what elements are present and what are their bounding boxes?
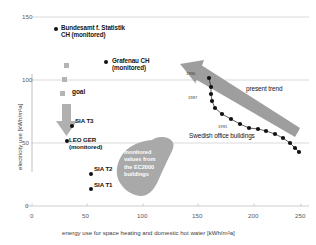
y-tick-0: 0 bbox=[25, 202, 28, 209]
annotation-present-trend: present trend bbox=[246, 85, 282, 93]
goal-arrow-icon bbox=[56, 104, 77, 136]
x-tick-150: 150 bbox=[192, 212, 202, 219]
y-tick-50: 50 bbox=[22, 139, 29, 146]
x-tick-250: 250 bbox=[295, 212, 305, 219]
goal-square-2 bbox=[62, 77, 67, 82]
x-tick-0: 0 bbox=[30, 212, 33, 219]
annotation-sia-t2: SIA T2 bbox=[94, 165, 112, 172]
annotation-bundesamt: Bundesamt f. Statistik CH (monitored) bbox=[61, 24, 125, 39]
x-tick-200: 200 bbox=[248, 212, 258, 219]
annotation-leo-ger: LEO GER (monitored) bbox=[69, 136, 102, 151]
year-label-1991: 1991 bbox=[218, 124, 227, 129]
chart-canvas bbox=[0, 0, 316, 245]
annotation-grafenau: Grafenau CH (monitored) bbox=[112, 57, 149, 72]
annotation-ec2000-blob: monitored values from the EC2000 buildin… bbox=[124, 149, 155, 179]
goal-square-3 bbox=[60, 91, 65, 96]
y-axis-title: electricity use [kWh/m²a] bbox=[16, 104, 23, 170]
annotation-swedish-office: Swedish office buildings bbox=[189, 132, 255, 140]
year-label-1987: 1987 bbox=[188, 95, 197, 100]
goal-square-1 bbox=[64, 63, 69, 68]
x-tick-100: 100 bbox=[137, 212, 147, 219]
annotation-sia-t3: SIA T3 bbox=[75, 117, 93, 124]
x-tick-50: 50 bbox=[82, 212, 89, 219]
y-tick-150: 150 bbox=[22, 13, 32, 20]
annotation-goal: goal bbox=[72, 88, 85, 96]
annotation-sia-t1: SIA T1 bbox=[94, 181, 112, 188]
y-tick-100: 100 bbox=[22, 76, 32, 83]
year-label-1990: 1990 bbox=[186, 71, 195, 76]
x-axis-title: energy use for space heating and domesti… bbox=[62, 229, 235, 236]
x-axis bbox=[26, 204, 309, 207]
